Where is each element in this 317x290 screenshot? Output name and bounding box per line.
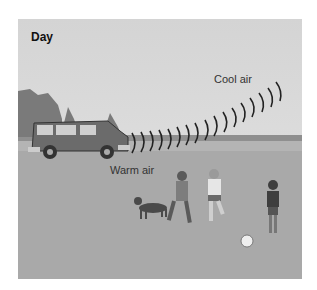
scene-art: [18, 19, 302, 279]
soccer-ball-icon: [241, 235, 253, 247]
van-icon: [28, 121, 130, 159]
day-scene-illustration: Day Cool air Warm air: [18, 19, 302, 279]
child-kicking-icon: [208, 169, 225, 221]
child-boy-icon: [267, 180, 279, 233]
figure-title: Day: [31, 30, 53, 44]
warm-air-label: Warm air: [110, 164, 154, 176]
dog-icon: [134, 197, 167, 219]
air-wave-arcs: [132, 82, 281, 153]
cool-air-label: Cool air: [214, 73, 252, 85]
child-girl-icon: [167, 171, 192, 223]
